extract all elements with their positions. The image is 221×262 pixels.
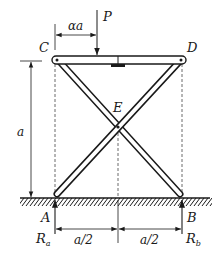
offset-dimension-label: αa bbox=[68, 19, 83, 33]
pin-c bbox=[56, 59, 59, 62]
point-a-label: A bbox=[40, 210, 50, 225]
top-beam-cd bbox=[52, 56, 186, 67]
point-b-label: B bbox=[186, 210, 197, 225]
half-span-left-label: a/2 bbox=[74, 233, 93, 247]
height-dimension-label: a bbox=[17, 125, 24, 139]
point-c-label: C bbox=[39, 40, 49, 55]
pin-d bbox=[180, 59, 183, 62]
point-e-label: E bbox=[112, 100, 123, 115]
scissor-linkage-diagram: P αa C D E a A B Ra Rb a/2 a/2 bbox=[0, 0, 221, 262]
point-d-label: D bbox=[186, 40, 198, 55]
half-span-right-label: a/2 bbox=[140, 233, 159, 247]
reaction-a-label: Ra bbox=[35, 231, 51, 248]
load-p-label: P bbox=[102, 9, 112, 24]
ground-hatch-line bbox=[214, 198, 220, 206]
ground bbox=[18, 198, 220, 206]
pin-e bbox=[116, 125, 119, 128]
reaction-b-label: Rb bbox=[185, 231, 201, 248]
